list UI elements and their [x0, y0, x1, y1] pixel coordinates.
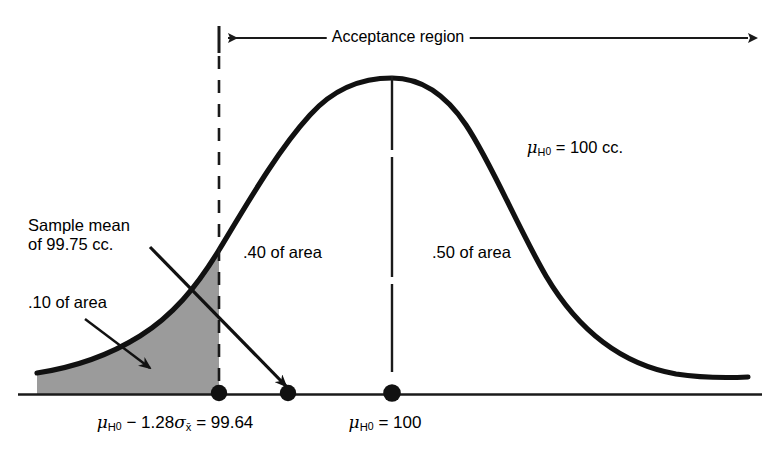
figure-canvas: Acceptance region Sample mean of 99.75 c…: [0, 0, 782, 458]
population-mean-annotation: μH0 = 100 cc.: [527, 138, 623, 159]
sample-mean-label: Sample mean of 99.75 cc.: [28, 216, 130, 255]
axis-dot-mean: [383, 384, 401, 402]
sigma-subscript-xbar: x̄: [186, 421, 192, 433]
mu-subscript-h: H: [538, 146, 546, 158]
sample-mean-label-line2: of 99.75 cc.: [28, 235, 130, 254]
critical-value-axis-label: μH0 − 1.28σx̄ = 99.64: [97, 412, 254, 434]
axis-dot-sample-mean: [280, 385, 296, 401]
mu-symbol-center: μ: [349, 412, 360, 432]
mu-symbol-left: μ: [97, 412, 108, 432]
fifty-of-area-label: .50 of area: [432, 243, 511, 262]
shaded-rejection-area: [37, 250, 219, 394]
mu-subscript-zero-left: 0: [116, 420, 122, 432]
acceptance-region-label: Acceptance region: [327, 28, 470, 47]
sigma-symbol: σ: [174, 412, 186, 432]
mu-subscript-zero: 0: [545, 146, 551, 157]
mean-axis-label: μH0 = 100: [349, 412, 422, 434]
mu-value-cc: = 100 cc.: [556, 138, 623, 156]
axis-dot-critical-value: [211, 385, 227, 401]
mu-subscript-h-center: H: [360, 421, 368, 433]
mu-subscript-zero-center: 0: [368, 420, 374, 432]
sample-mean-label-line1: Sample mean: [28, 216, 130, 235]
mu-subscript-h-left: H: [108, 421, 116, 433]
mu-symbol: μ: [527, 138, 538, 157]
mean-axis-value: = 100: [378, 413, 421, 432]
ten-of-area-label: .10 of area: [28, 293, 107, 312]
critical-value-result: = 99.64: [196, 413, 253, 432]
critical-value-coefficient: − 1.28: [126, 413, 174, 432]
forty-of-area-label: .40 of area: [243, 243, 322, 262]
